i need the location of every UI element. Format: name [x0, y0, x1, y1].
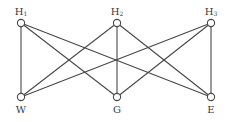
node-label-letter: H: [111, 6, 120, 17]
node-h1: [17, 19, 24, 26]
node-label-e: E: [207, 105, 214, 115]
node-w: [17, 93, 24, 100]
node-label-h1: H1: [15, 7, 28, 17]
node-g: [113, 93, 120, 100]
node-label-letter: G: [113, 104, 121, 115]
edge-group: [21, 23, 211, 97]
node-h2: [113, 19, 120, 26]
node-label-subscript: 2: [119, 10, 123, 17]
node-label-h2: H2: [111, 7, 124, 17]
node-label-h3: H3: [205, 7, 218, 17]
node-label-letter: E: [207, 104, 214, 115]
node-label-g: G: [113, 105, 121, 115]
node-label-subscript: 1: [23, 10, 27, 17]
node-h3: [207, 19, 214, 26]
node-e: [207, 93, 214, 100]
node-label-subscript: 3: [213, 10, 217, 17]
node-label-letter: W: [16, 104, 26, 115]
node-label-letter: H: [15, 6, 24, 17]
node-label-letter: H: [205, 6, 214, 17]
node-label-w: W: [16, 105, 26, 115]
